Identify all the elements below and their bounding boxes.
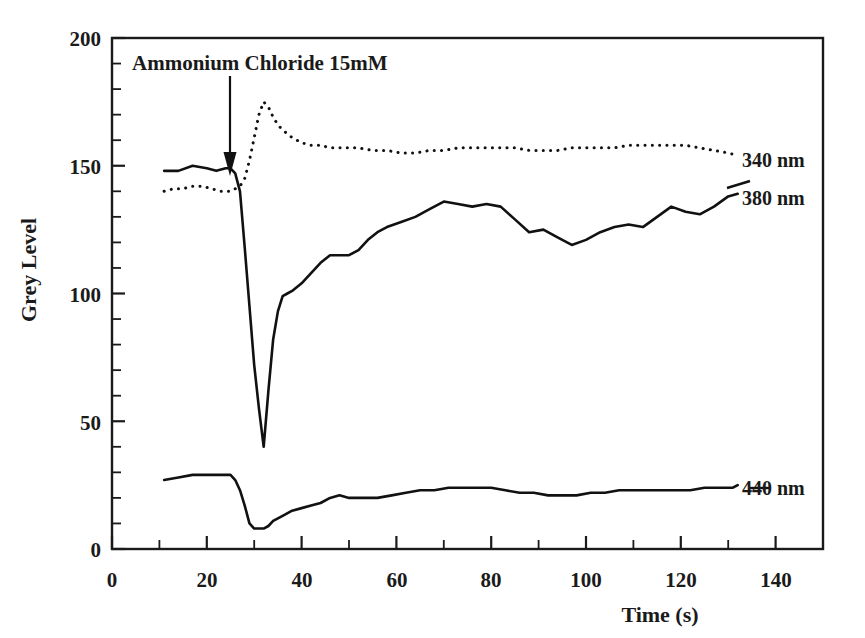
y-axis-ticks (112, 38, 125, 549)
x-tick-label-60: 60 (387, 568, 408, 592)
x-axis-title: Time (s) (621, 602, 698, 627)
y-tick-label-50: 50 (80, 411, 101, 435)
y-tick-label-150: 150 (70, 155, 102, 179)
grey-level-vs-time-chart: Ammonium Chloride 15mM Grey Level Time (… (0, 0, 865, 638)
x-tick-label-140: 140 (760, 568, 792, 592)
annotation-arrow (224, 76, 237, 176)
x-tick-label-80: 80 (481, 568, 502, 592)
series-line-380nm (164, 166, 738, 447)
series-line-340nm (164, 102, 738, 191)
annotation-label: Ammonium Chloride 15mM (132, 51, 388, 75)
y-tick-label-200: 200 (70, 27, 102, 51)
x-axis-ticks (112, 536, 823, 549)
y-tick-label-100: 100 (70, 283, 102, 307)
x-tick-label-0: 0 (107, 568, 118, 592)
y-tick-label-0: 0 (91, 538, 102, 562)
series-leader-lines (727, 181, 770, 488)
series-line-440nm (164, 475, 738, 529)
x-tick-label-20: 20 (197, 568, 218, 592)
x-tick-label-100: 100 (570, 568, 602, 592)
series-label-440nm: 440 nm (742, 477, 805, 499)
x-tick-label-120: 120 (665, 568, 697, 592)
figure-root: Ammonium Chloride 15mM Grey Level Time (… (0, 0, 865, 638)
series-label-380nm: 380 nm (742, 187, 805, 209)
x-tick-label-40: 40 (292, 568, 313, 592)
y-axis-title: Grey Level (16, 218, 41, 322)
plot-frame (112, 38, 823, 549)
data-series-group (164, 102, 738, 529)
series-label-340nm: 340 nm (742, 149, 805, 171)
